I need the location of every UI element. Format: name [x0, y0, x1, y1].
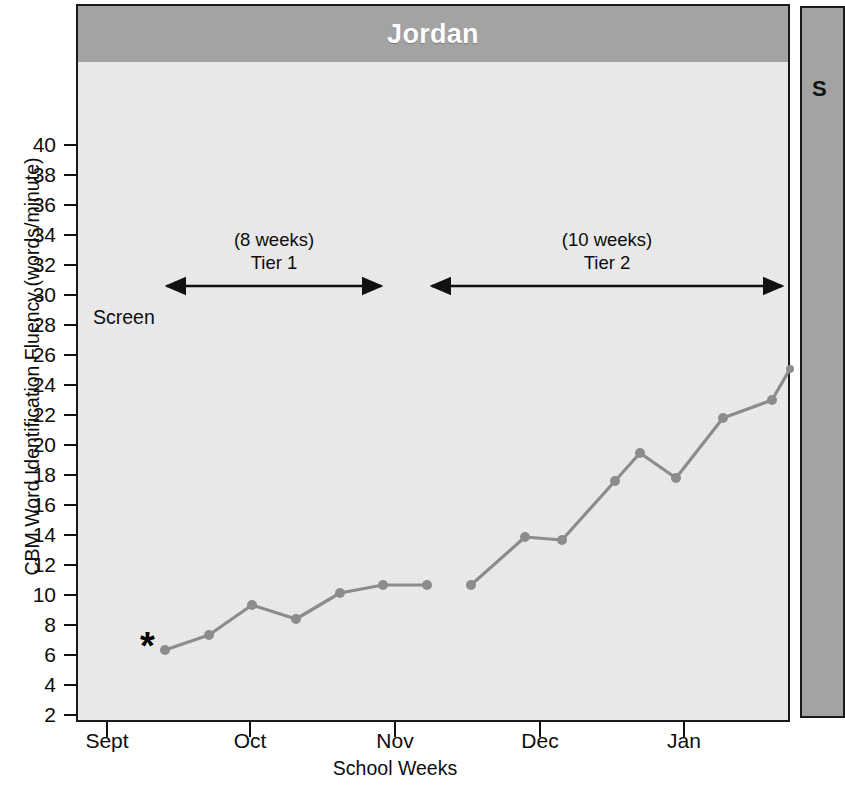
- phase1-name: Tier 1: [154, 251, 394, 274]
- y-tick-label: 2: [16, 703, 56, 727]
- series-tier-2: [466, 365, 794, 590]
- y-tick-label: 22: [16, 403, 56, 427]
- y-tick-label: 38: [16, 163, 56, 187]
- screen-annotation: Screen: [93, 306, 155, 329]
- phase-label-tier1: (8 weeks) Tier 1: [154, 228, 394, 275]
- x-tick-label-oct: Oct: [205, 729, 295, 753]
- x-tick-label-dec: Dec: [495, 729, 585, 753]
- y-tick-label: 4: [16, 673, 56, 697]
- y-tick-label: 20: [16, 433, 56, 457]
- y-tick-label: 24: [16, 373, 56, 397]
- y-tick-label: 30: [16, 283, 56, 307]
- asterisk-marker: *: [140, 627, 155, 665]
- x-tick-label-jan: Jan: [639, 729, 729, 753]
- x-tick-label-sept: Sept: [62, 729, 152, 753]
- phase1-weeks: (8 weeks): [154, 228, 394, 251]
- x-tick-label-nov: Nov: [350, 729, 440, 753]
- y-tick-label: 8: [16, 613, 56, 637]
- phase2-weeks: (10 weeks): [487, 228, 727, 251]
- y-tick-label: 34: [16, 223, 56, 247]
- x-axis-label: School Weeks: [0, 757, 790, 780]
- y-tick-label: 36: [16, 193, 56, 217]
- y-tick-label: 26: [16, 343, 56, 367]
- y-tick-label: 40: [16, 133, 56, 157]
- y-tick-label: 28: [16, 313, 56, 337]
- phase2-name: Tier 2: [487, 251, 727, 274]
- y-tick-label: 12: [16, 553, 56, 577]
- y-tick-label: 14: [16, 523, 56, 547]
- y-tick-label: 10: [16, 583, 56, 607]
- y-tick-label: 16: [16, 493, 56, 517]
- y-tick-label: 32: [16, 253, 56, 277]
- series-tier-1: [160, 580, 432, 655]
- y-tick-label: 6: [16, 643, 56, 667]
- y-tick-label: 18: [16, 463, 56, 487]
- phase-label-tier2: (10 weeks) Tier 2: [487, 228, 727, 275]
- y-axis-ticks: [64, 145, 78, 715]
